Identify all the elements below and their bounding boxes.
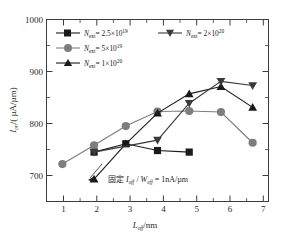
- chart-background: [0, 0, 289, 239]
- circle-marker-icon: [185, 107, 193, 115]
- legend-2-eq: = 5×10: [96, 44, 118, 53]
- legend-1-eq: = 2×10: [198, 29, 220, 38]
- square-marker-icon: [64, 30, 71, 37]
- x-tick-label-5: 5: [194, 204, 199, 214]
- legend-label-2: Next= 5×1019: [83, 43, 123, 54]
- x-tick-label-7: 7: [261, 204, 266, 214]
- y-tick-label-700: 700: [30, 171, 44, 181]
- annotation-prefix: 固定: [108, 174, 126, 184]
- y-axis-label-unit: /( µA/µm): [8, 87, 18, 124]
- y-tick-label-900: 900: [30, 67, 44, 77]
- legend-label-3: Next= 1×1020: [83, 58, 123, 69]
- legend-label-1: Next= 2×1020: [185, 28, 225, 39]
- x-tick-label-1: 1: [61, 204, 66, 214]
- legend-0-eq: = 2.5×10: [96, 29, 123, 38]
- annotation-suffix: = 1nA/µm: [153, 175, 189, 184]
- square-marker-icon: [186, 149, 193, 156]
- legend-1-exponent: 20: [219, 28, 225, 34]
- legend-3-eq: = 1×10: [96, 59, 118, 68]
- legend-0-exponent: 19: [122, 28, 128, 34]
- x-tick-label-6: 6: [228, 204, 233, 214]
- circle-marker-icon: [64, 44, 72, 52]
- x-tick-label-4: 4: [161, 204, 166, 214]
- x-tick-label-2: 2: [95, 204, 100, 214]
- circle-marker-icon: [90, 141, 98, 149]
- circle-marker-icon: [122, 122, 130, 130]
- x-axis-label: Loff/nm: [132, 220, 158, 231]
- chart-svg: 1000 900 800 700 1 2 3 4 5 6 7: [0, 0, 289, 239]
- y-tick-label-800: 800: [30, 119, 44, 129]
- circle-marker-icon: [217, 108, 225, 116]
- square-marker-icon: [154, 147, 161, 154]
- circle-marker-icon: [249, 139, 257, 147]
- x-axis-label-unit: /nm: [143, 220, 157, 230]
- legend-3-exponent: 20: [117, 58, 123, 64]
- y-tick-label-1000: 1000: [25, 15, 44, 25]
- circle-marker-icon: [58, 160, 66, 168]
- legend-2-exponent: 19: [117, 43, 123, 49]
- chart-figure: 1000 900 800 700 1 2 3 4 5 6 7: [0, 0, 289, 239]
- x-tick-label-3: 3: [128, 204, 133, 214]
- svg-text:Loff/nm: Loff/nm: [132, 220, 158, 231]
